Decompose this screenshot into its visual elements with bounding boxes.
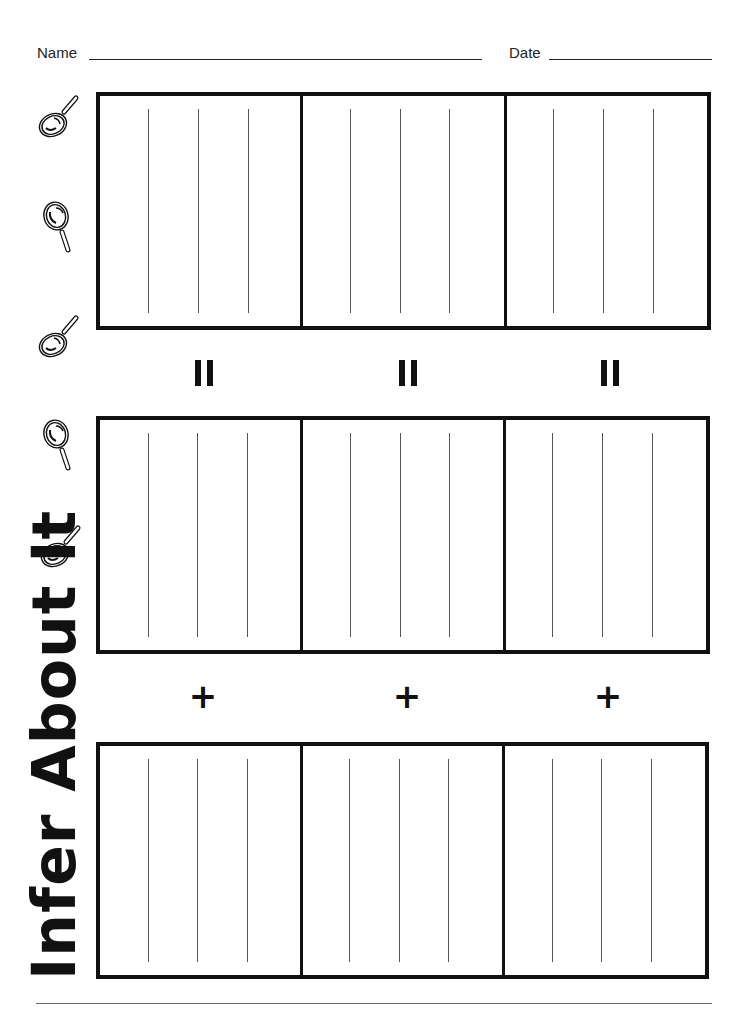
guide-line: [248, 109, 249, 313]
guide-line: [198, 109, 199, 313]
writing-cell[interactable]: [507, 96, 707, 326]
plus-sign: +: [183, 676, 223, 716]
guide-line: [350, 433, 351, 637]
writing-cell[interactable]: [100, 420, 303, 650]
answer-box-row-2: [96, 416, 710, 654]
equals-sign: [399, 360, 419, 386]
plus-sign: +: [588, 676, 628, 716]
magnifying-glass-icon: [34, 416, 80, 472]
writing-cell[interactable]: [303, 420, 506, 650]
guide-line: [247, 759, 248, 962]
guide-line: [400, 109, 401, 313]
name-label: Name: [37, 44, 77, 61]
date-field-line[interactable]: [549, 59, 712, 60]
footer-rule: [36, 1003, 712, 1004]
writing-cell[interactable]: [506, 420, 706, 650]
guide-line: [148, 433, 149, 637]
worksheet-title: Infer About It: [24, 510, 84, 980]
guide-line: [552, 759, 553, 962]
magnifying-glass-icon: [34, 92, 80, 148]
writing-cell[interactable]: [303, 746, 506, 975]
guide-line: [653, 109, 654, 313]
writing-cell[interactable]: [505, 746, 705, 975]
answer-box-row-1: [96, 92, 711, 330]
guide-line: [349, 759, 350, 962]
answer-box-row-3: [96, 742, 709, 979]
guide-line: [652, 433, 653, 637]
magnifying-glass-icon: [34, 198, 80, 254]
guide-line: [449, 109, 450, 313]
date-label: Date: [509, 44, 541, 61]
writing-cell[interactable]: [100, 746, 303, 975]
plus-sign: +: [387, 676, 427, 716]
guide-line: [553, 109, 554, 313]
writing-cell[interactable]: [100, 96, 303, 326]
guide-line: [197, 759, 198, 962]
equals-sign: [601, 360, 621, 386]
guide-line: [197, 433, 198, 637]
guide-line: [449, 433, 450, 637]
writing-cell[interactable]: [303, 96, 506, 326]
guide-line: [247, 433, 248, 637]
equals-sign: [195, 360, 215, 386]
guide-line: [603, 109, 604, 313]
guide-line: [400, 433, 401, 637]
guide-line: [148, 109, 149, 313]
name-field-line[interactable]: [89, 59, 482, 60]
guide-line: [148, 759, 149, 962]
guide-line: [651, 759, 652, 962]
guide-line: [350, 109, 351, 313]
guide-line: [601, 759, 602, 962]
magnifying-glass-icon: [34, 312, 80, 368]
guide-line: [552, 433, 553, 637]
guide-line: [448, 759, 449, 962]
guide-line: [602, 433, 603, 637]
guide-line: [399, 759, 400, 962]
